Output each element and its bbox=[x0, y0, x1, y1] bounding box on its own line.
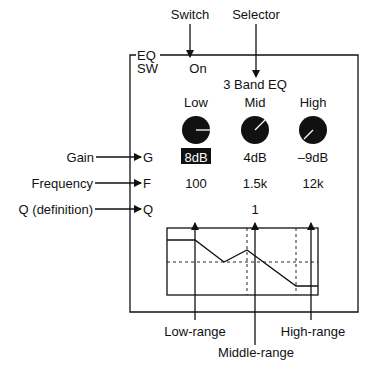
frequency-callout-label: Frequency bbox=[32, 176, 94, 191]
eq-curve bbox=[167, 240, 318, 286]
freq-mid-value[interactable]: 1.5k bbox=[243, 176, 268, 191]
band-label-high: High bbox=[300, 95, 327, 110]
high-range-label: High-range bbox=[281, 324, 345, 339]
knob-mid[interactable] bbox=[241, 116, 269, 144]
switch-callout-label: Switch bbox=[171, 7, 209, 22]
gain-low-value[interactable]: 8dB bbox=[184, 150, 207, 165]
panel-title-sw: SW bbox=[137, 61, 159, 76]
freq-low-value[interactable]: 100 bbox=[185, 176, 207, 191]
band-label-low: Low bbox=[184, 95, 208, 110]
eq-response-graph bbox=[167, 228, 318, 295]
gain-mid-value[interactable]: 4dB bbox=[243, 150, 266, 165]
band-label-mid: Mid bbox=[245, 95, 266, 110]
middle-range-label: Middle-range bbox=[218, 345, 294, 360]
row-label-q: Q bbox=[143, 202, 153, 217]
gain-callout-label: Gain bbox=[67, 150, 94, 165]
freq-high-value[interactable]: 12k bbox=[303, 176, 324, 191]
gain-high-value[interactable]: –9dB bbox=[298, 150, 328, 165]
q-value[interactable]: 1 bbox=[251, 202, 258, 217]
row-label-frequency: F bbox=[143, 176, 151, 191]
low-range-label: Low-range bbox=[164, 324, 225, 339]
q-callout-label: Q (definition) bbox=[19, 202, 93, 217]
row-label-gain: G bbox=[143, 150, 153, 165]
mode-selector-value[interactable]: 3 Band EQ bbox=[223, 77, 287, 92]
selector-callout-label: Selector bbox=[232, 7, 280, 22]
switch-value[interactable]: On bbox=[189, 61, 206, 76]
knob-low[interactable] bbox=[182, 116, 210, 144]
knob-high[interactable] bbox=[299, 116, 327, 144]
eq-diagram: EQ SW Switch On Selector 3 Band EQ Low M… bbox=[0, 0, 378, 376]
